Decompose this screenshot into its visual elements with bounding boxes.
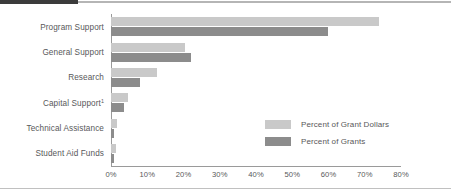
- bar-grants: [111, 154, 114, 163]
- category-label-row: Program Support: [0, 14, 111, 39]
- x-axis-tick-label: 50%: [285, 170, 301, 179]
- x-axis-tick-label: 80%: [393, 170, 409, 179]
- x-axis-tick-label: 70%: [357, 170, 373, 179]
- category-label: Technical Assistance: [26, 123, 104, 132]
- legend-item-grant-dollars: Percent of Grant Dollars: [265, 120, 389, 129]
- x-axis-tick-label: 20%: [176, 170, 192, 179]
- x-axis-tick-label: 60%: [321, 170, 337, 179]
- chart-legend: Percent of Grant Dollars Percent of Gran…: [265, 120, 389, 154]
- category-label-row: Technical Assistance: [0, 115, 111, 140]
- header-rule-light: [78, 1, 451, 3]
- bar-grant-dollars: [111, 68, 157, 77]
- grant-distribution-bar-chart: Program SupportGeneral SupportResearchCa…: [0, 0, 451, 191]
- x-axis-tick-label: 30%: [212, 170, 228, 179]
- category-label-row: Research: [0, 65, 111, 90]
- category-label: Student Aid Funds: [35, 149, 104, 158]
- bar-grant-dollars: [111, 17, 379, 26]
- bar-grant-dollars: [111, 144, 116, 153]
- category-label-row: General Support: [0, 39, 111, 64]
- legend-swatch-grant-dollars: [265, 120, 291, 129]
- footer-rule: [0, 188, 451, 189]
- bar-grant-dollars: [111, 93, 128, 102]
- x-axis-tick-label: 40%: [248, 170, 264, 179]
- x-axis-line: [111, 166, 401, 167]
- category-axis-labels: Program SupportGeneral SupportResearchCa…: [0, 14, 111, 166]
- category-label: Research: [68, 73, 104, 82]
- bar-grants: [111, 27, 328, 36]
- category-label: Capital Support1: [43, 97, 104, 108]
- category-label-row: Capital Support1: [0, 90, 111, 115]
- bar-grants: [111, 129, 114, 138]
- legend-item-grants: Percent of Grants: [265, 137, 389, 146]
- bar-grants: [111, 53, 191, 62]
- category-label-row: Student Aid Funds: [0, 141, 111, 166]
- x-axis-tick-label: 0%: [105, 170, 116, 179]
- bar-grants: [111, 78, 140, 87]
- category-label: Program Support: [40, 22, 104, 31]
- legend-label-grant-dollars: Percent of Grant Dollars: [301, 120, 389, 129]
- bar-grant-dollars: [111, 43, 185, 52]
- bar-grants: [111, 103, 124, 112]
- legend-swatch-grants: [265, 137, 291, 146]
- category-label: General Support: [42, 47, 104, 56]
- bar-grant-dollars: [111, 119, 117, 128]
- x-axis-tick-label: 10%: [140, 170, 156, 179]
- footnote-marker: 1: [101, 97, 104, 103]
- legend-label-grants: Percent of Grants: [301, 137, 365, 146]
- header-rule-dark: [0, 0, 78, 4]
